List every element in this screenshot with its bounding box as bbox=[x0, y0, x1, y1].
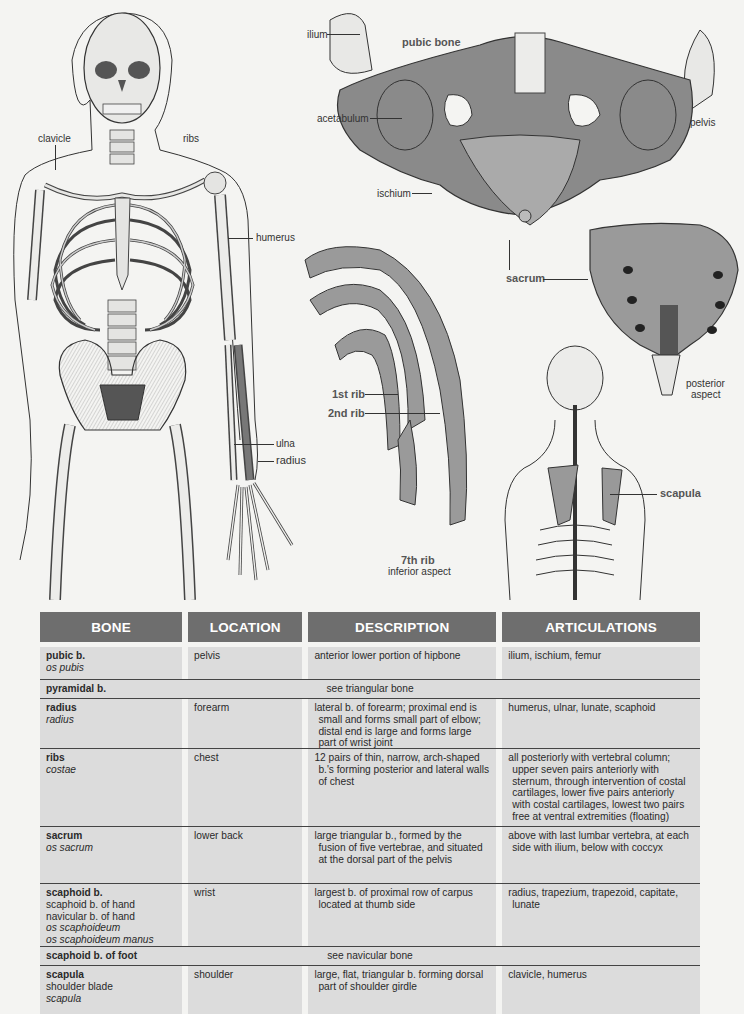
cell-articulations: ilium, ischium, femur bbox=[502, 647, 700, 679]
see-reference: see triangular bone bbox=[40, 683, 700, 695]
bone-latin: scapula bbox=[46, 993, 177, 1005]
leader-line bbox=[509, 240, 510, 270]
bone-name: sacrum bbox=[46, 830, 177, 842]
anatomy-illustrations: clavicle ribs humerus ulna radius ilium … bbox=[0, 0, 744, 600]
leader-line bbox=[412, 193, 432, 194]
label-inferior-aspect: inferior aspect bbox=[388, 566, 451, 577]
bone-latin: os sacrum bbox=[46, 842, 177, 854]
leader-line bbox=[327, 34, 360, 35]
leader-line bbox=[365, 413, 440, 414]
header-bone: BONE bbox=[40, 612, 182, 642]
cell-articulations: humerus, ulnar, lunate, scaphoid bbox=[502, 699, 700, 748]
cell-location: shoulder bbox=[188, 966, 302, 1014]
cell-location: forearm bbox=[188, 699, 302, 748]
label-pelvis: pelvis bbox=[690, 117, 716, 128]
cell-location: pelvis bbox=[188, 647, 302, 679]
table-row-see-also: pyramidal b. see triangular bone bbox=[40, 680, 700, 699]
skeleton-illustration bbox=[0, 0, 744, 600]
leader-line bbox=[610, 494, 657, 495]
cell-span: pyramidal b. see triangular bone bbox=[40, 680, 700, 698]
bone-name: pubic b. bbox=[46, 650, 177, 662]
label-ribs: ribs bbox=[183, 133, 199, 144]
table-row: sacrum os sacrum lower back large triang… bbox=[40, 827, 700, 884]
cell-description: largest b. of proximal row of carpus loc… bbox=[308, 884, 496, 946]
cell-description: lateral b. of forearm; proximal end is s… bbox=[308, 699, 496, 748]
cell-location: wrist bbox=[188, 884, 302, 946]
bone-name: scapula bbox=[46, 969, 177, 981]
bone-name: ribs bbox=[46, 752, 177, 764]
leader-line bbox=[543, 279, 588, 280]
leader-line bbox=[258, 461, 274, 462]
sacrum-drawing bbox=[590, 223, 738, 395]
cell-bone: scaphoid b. scaphoid b. of hand navicula… bbox=[40, 884, 182, 946]
table-row: scapula shoulder blade scapula shoulder … bbox=[40, 966, 700, 1014]
cell-description: large triangular b., formed by the fusio… bbox=[308, 827, 496, 883]
bone-table: BONE LOCATION DESCRIPTION ARTICULATIONS … bbox=[40, 612, 700, 1014]
bone-latin: os pubis bbox=[46, 662, 177, 674]
back-drawing bbox=[505, 346, 645, 600]
table-row-see-also: scaphoid b. of foot see navicular bone bbox=[40, 947, 700, 966]
bone-latin: os scaphoideum manus bbox=[46, 934, 177, 946]
table-row: scaphoid b. scaphoid b. of hand navicula… bbox=[40, 884, 700, 947]
cell-location: lower back bbox=[188, 827, 302, 883]
leader-line bbox=[228, 238, 253, 239]
label-humerus: humerus bbox=[256, 232, 295, 243]
cell-span: scaphoid b. of foot see navicular bone bbox=[40, 947, 700, 965]
label-1st-rib: 1st rib bbox=[332, 389, 365, 400]
bone-name: radius bbox=[46, 702, 177, 714]
bone-name: scaphoid b. bbox=[46, 887, 177, 899]
cell-articulations: all posteriorly with vertebral column; u… bbox=[502, 749, 700, 826]
cell-description: anterior lower portion of hipbone bbox=[308, 647, 496, 679]
cell-description: large, flat, triangular b. forming dorsa… bbox=[308, 966, 496, 1014]
label-sacrum: sacrum bbox=[506, 273, 545, 284]
cell-bone: scapula shoulder blade scapula bbox=[40, 966, 182, 1014]
table-row: ribs costae chest 12 pairs of thin, narr… bbox=[40, 749, 700, 827]
cell-articulations: clavicle, humerus bbox=[502, 966, 700, 1014]
label-2nd-rib: 2nd rib bbox=[328, 408, 365, 419]
leader-line bbox=[365, 394, 398, 395]
label-aspect: aspect bbox=[691, 389, 720, 400]
label-clavicle: clavicle bbox=[38, 133, 71, 144]
cell-articulations: radius, trapezium, trapezoid, capitate, … bbox=[502, 884, 700, 946]
bone-synonym: navicular b. of hand bbox=[46, 911, 177, 923]
cell-location: chest bbox=[188, 749, 302, 826]
label-ulna: ulna bbox=[276, 438, 295, 449]
bone-synonym: shoulder blade bbox=[46, 981, 177, 993]
cell-bone: sacrum os sacrum bbox=[40, 827, 182, 883]
bone-latin: radius bbox=[46, 714, 177, 726]
table-header: BONE LOCATION DESCRIPTION ARTICULATIONS bbox=[40, 612, 700, 642]
label-pubic-bone: pubic bone bbox=[402, 37, 461, 48]
leader-line bbox=[234, 444, 274, 445]
bone-synonym: scaphoid b. of hand bbox=[46, 899, 177, 911]
label-scapula: scapula bbox=[660, 488, 701, 499]
cell-bone: ribs costae bbox=[40, 749, 182, 826]
leader-line bbox=[370, 118, 402, 119]
label-posterior: posterior bbox=[686, 378, 725, 389]
table-row: radius radius forearm lateral b. of fore… bbox=[40, 699, 700, 749]
cell-bone: pubic b. os pubis bbox=[40, 647, 182, 679]
label-acetabulum: acetabulum bbox=[317, 113, 369, 124]
cell-bone: radius radius bbox=[40, 699, 182, 748]
header-description: DESCRIPTION bbox=[308, 612, 496, 642]
header-articulations: ARTICULATIONS bbox=[502, 612, 700, 642]
cell-description: 12 pairs of thin, narrow, arch-shaped b.… bbox=[308, 749, 496, 826]
bone-latin: os scaphoideum bbox=[46, 922, 177, 934]
label-ischium: ischium bbox=[377, 188, 411, 199]
cell-articulations: above with last lumbar vertebra, at each… bbox=[502, 827, 700, 883]
header-location: LOCATION bbox=[188, 612, 302, 642]
table-row: pubic b. os pubis pelvis anterior lower … bbox=[40, 647, 700, 680]
ribs-drawing bbox=[305, 247, 467, 525]
label-7th-rib: 7th rib bbox=[401, 555, 435, 566]
table-body: pubic b. os pubis pelvis anterior lower … bbox=[40, 647, 700, 1014]
bone-latin: costae bbox=[46, 764, 177, 776]
label-radius: radius bbox=[276, 455, 306, 466]
label-ilium: ilium bbox=[307, 29, 328, 40]
leader-line bbox=[55, 145, 56, 170]
see-reference: see navicular bone bbox=[40, 950, 700, 962]
